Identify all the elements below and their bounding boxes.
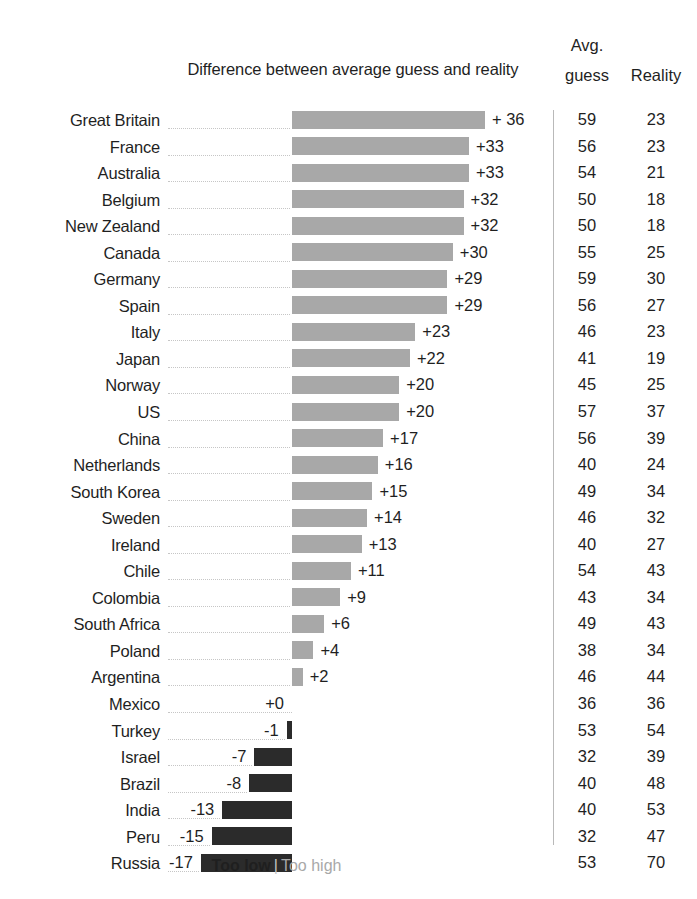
chart-rows: Great Britain+ 365923France+335623Austra… bbox=[0, 108, 697, 878]
avg-guess-value: 40 bbox=[556, 453, 618, 480]
value-bar bbox=[292, 217, 464, 235]
leader-line bbox=[168, 632, 290, 633]
avg-guess-value: 56 bbox=[556, 294, 618, 321]
avg-guess-value: 36 bbox=[556, 692, 618, 719]
avg-guess-value: 49 bbox=[556, 612, 618, 639]
leader-line bbox=[168, 393, 290, 394]
country-label: Israel bbox=[0, 745, 160, 772]
value-bar bbox=[292, 668, 303, 686]
avg-guess-value: 40 bbox=[556, 798, 618, 825]
avg-guess-value: 38 bbox=[556, 639, 618, 666]
delta-label: +13 bbox=[369, 533, 397, 560]
reality-value: 48 bbox=[620, 772, 692, 799]
delta-label: +30 bbox=[460, 241, 488, 268]
avg-guess-value: 53 bbox=[556, 719, 618, 746]
chart-legend: Too low|Too high bbox=[0, 857, 553, 875]
chart-row: Peru-153247 bbox=[0, 825, 697, 852]
reality-value: 39 bbox=[620, 427, 692, 454]
chart-row: Germany+295930 bbox=[0, 267, 697, 294]
reality-value: 34 bbox=[620, 586, 692, 613]
leader-line bbox=[168, 287, 290, 288]
reality-value: 19 bbox=[620, 347, 692, 374]
value-bar bbox=[292, 535, 362, 553]
delta-label: +22 bbox=[417, 347, 445, 374]
chart-row: Australia+335421 bbox=[0, 161, 697, 188]
leader-line bbox=[168, 128, 290, 129]
value-bar bbox=[292, 243, 453, 261]
chart-row: Brazil-84048 bbox=[0, 772, 697, 799]
delta-label: +20 bbox=[406, 373, 434, 400]
reality-value: 32 bbox=[620, 506, 692, 533]
reality-value: 27 bbox=[620, 294, 692, 321]
country-label: Brazil bbox=[0, 772, 160, 799]
value-bar bbox=[254, 748, 292, 766]
avg-guess-value: 32 bbox=[556, 745, 618, 772]
delta-label: +32 bbox=[471, 188, 499, 215]
value-bar bbox=[292, 482, 372, 500]
leader-line bbox=[168, 340, 290, 341]
leader-line bbox=[168, 367, 290, 368]
country-label: Argentina bbox=[0, 665, 160, 692]
delta-label: +6 bbox=[331, 612, 350, 639]
reality-value: 47 bbox=[620, 825, 692, 852]
reality-value: 34 bbox=[620, 480, 692, 507]
reality-value: 18 bbox=[620, 214, 692, 241]
country-label: US bbox=[0, 400, 160, 427]
avg-guess-value: 40 bbox=[556, 772, 618, 799]
legend-divider: | bbox=[271, 857, 281, 874]
country-label: Belgium bbox=[0, 188, 160, 215]
delta-label: +29 bbox=[454, 267, 482, 294]
value-bar bbox=[222, 801, 292, 819]
delta-label: +15 bbox=[379, 480, 407, 507]
reality-value: 27 bbox=[620, 533, 692, 560]
chart-row: Canada+305525 bbox=[0, 241, 697, 268]
delta-label: + 36 bbox=[492, 108, 525, 135]
chart-row: Norway+204525 bbox=[0, 373, 697, 400]
avg-guess-value: 54 bbox=[556, 161, 618, 188]
value-bar bbox=[292, 641, 313, 659]
value-bar bbox=[292, 376, 399, 394]
value-bar bbox=[292, 349, 410, 367]
reality-value: 53 bbox=[620, 798, 692, 825]
delta-label: +14 bbox=[374, 506, 402, 533]
value-bar bbox=[287, 721, 292, 739]
delta-label: +20 bbox=[406, 400, 434, 427]
leader-line bbox=[168, 155, 290, 156]
avg-guess-value: 55 bbox=[556, 241, 618, 268]
chart-row: Italy+234623 bbox=[0, 320, 697, 347]
country-label: Australia bbox=[0, 161, 160, 188]
reality-value: 25 bbox=[620, 373, 692, 400]
avg-guess-value: 56 bbox=[556, 427, 618, 454]
leader-line bbox=[168, 314, 290, 315]
chart-row: South Korea+154934 bbox=[0, 480, 697, 507]
delta-label: +17 bbox=[390, 427, 418, 454]
country-label: Norway bbox=[0, 373, 160, 400]
avg-guess-value: 49 bbox=[556, 480, 618, 507]
avg-guess-value: 46 bbox=[556, 506, 618, 533]
delta-label: +11 bbox=[358, 559, 385, 586]
country-label: Mexico bbox=[0, 692, 160, 719]
reality-value: 70 bbox=[620, 851, 692, 878]
delta-label: +9 bbox=[347, 586, 366, 613]
leader-line bbox=[168, 606, 290, 607]
value-bar bbox=[292, 403, 399, 421]
value-bar bbox=[292, 296, 447, 314]
delta-label: -1 bbox=[175, 719, 279, 746]
country-label: Turkey bbox=[0, 719, 160, 746]
chart-row: India-134053 bbox=[0, 798, 697, 825]
value-bar bbox=[292, 164, 469, 182]
chart-row: Poland+43834 bbox=[0, 639, 697, 666]
country-label: Sweden bbox=[0, 506, 160, 533]
leader-line bbox=[168, 261, 290, 262]
reality-value: 21 bbox=[620, 161, 692, 188]
column-header-avg-guess-line1: Avg. bbox=[556, 30, 618, 60]
delta-label: +29 bbox=[454, 294, 482, 321]
chart-row: Turkey-15354 bbox=[0, 719, 697, 746]
leader-line bbox=[168, 579, 290, 580]
leader-line bbox=[168, 685, 290, 686]
leader-line bbox=[168, 526, 290, 527]
chart-row: France+335623 bbox=[0, 135, 697, 162]
column-header-avg-guess-line2: guess bbox=[556, 60, 618, 90]
delta-label: -8 bbox=[137, 772, 241, 799]
avg-guess-value: 53 bbox=[556, 851, 618, 878]
